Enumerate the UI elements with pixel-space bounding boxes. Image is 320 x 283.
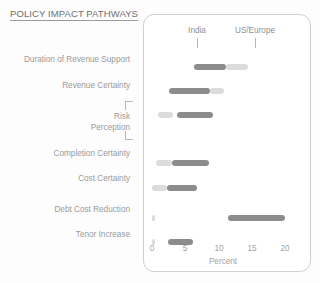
bar-segment-us-europe-debt-cost-reduction bbox=[152, 215, 155, 221]
bar-segment-us-europe-completion-certainty bbox=[156, 160, 172, 166]
bar-segment-us-europe-tenor-increase bbox=[152, 239, 155, 245]
row-label-duration-of-revenue-support: Duration of Revenue Support bbox=[24, 55, 130, 64]
row-label-completion-certainty: Completion Certainty bbox=[54, 149, 130, 158]
bar-segment-india-cost-certainty bbox=[167, 185, 197, 191]
row-label-cost-certainty: Cost Certainty bbox=[78, 174, 130, 183]
legend-leader-line-india bbox=[197, 38, 198, 48]
bar-segment-us-europe-revenue-certainty bbox=[210, 88, 224, 94]
category-label-column: Duration of Revenue Support Revenue Cert… bbox=[0, 0, 138, 283]
bar-segment-india-risk-perception bbox=[177, 112, 213, 118]
x-tick-10: 10 bbox=[214, 244, 223, 253]
x-tick-15: 15 bbox=[247, 244, 256, 253]
x-tick-20: 20 bbox=[280, 244, 289, 253]
plot-panel: India US/Europe 0 5 10 15 20 Percent bbox=[143, 14, 311, 272]
x-tick-0: 0 bbox=[150, 244, 155, 253]
bar-segment-india-tenor-increase bbox=[168, 239, 193, 245]
risk-perception-bracket-top bbox=[125, 101, 133, 110]
bar-segment-india-completion-certainty bbox=[172, 160, 209, 166]
risk-perception-bracket-bottom bbox=[125, 131, 133, 140]
legend-label-india: India bbox=[188, 26, 206, 35]
bar-segment-us-europe-cost-certainty bbox=[152, 185, 167, 191]
row-label-tenor-increase: Tenor Increase bbox=[76, 230, 130, 239]
bar-segment-us-europe-duration-of-revenue-support bbox=[226, 64, 247, 70]
legend-label-us-europe: US/Europe bbox=[235, 26, 275, 35]
x-axis-title: Percent bbox=[209, 257, 237, 266]
row-label-revenue-certainty: Revenue Certainty bbox=[62, 81, 130, 90]
plot-area: India US/Europe 0 5 10 15 20 Percent bbox=[144, 15, 312, 273]
bar-segment-india-debt-cost-reduction bbox=[228, 215, 285, 221]
row-label-risk: Risk bbox=[114, 112, 130, 121]
bar-segment-india-revenue-certainty bbox=[169, 88, 210, 94]
bar-segment-india-duration-of-revenue-support bbox=[194, 64, 227, 70]
x-tick-5: 5 bbox=[183, 244, 188, 253]
legend-leader-line-us-europe bbox=[255, 38, 256, 48]
row-label-debt-cost-reduction: Debt Cost Reduction bbox=[54, 205, 130, 214]
bar-segment-us-europe-risk-perception bbox=[158, 112, 173, 118]
chart-figure: POLICY IMPACT PATHWAYS Duration of Reven… bbox=[0, 0, 320, 283]
